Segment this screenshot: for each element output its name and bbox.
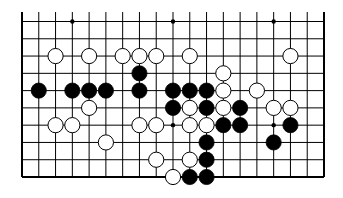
black-stone[interactable] <box>182 169 197 184</box>
white-stone[interactable] <box>149 152 164 167</box>
white-stone[interactable] <box>132 48 147 63</box>
white-stone[interactable] <box>182 48 197 63</box>
white-stone[interactable] <box>149 118 164 133</box>
white-stone[interactable] <box>182 100 197 115</box>
black-stone[interactable] <box>132 66 147 81</box>
black-stone[interactable] <box>165 100 180 115</box>
go-board-diagram <box>0 0 343 198</box>
white-stone[interactable] <box>182 152 197 167</box>
white-stone[interactable] <box>149 48 164 63</box>
white-stone[interactable] <box>283 48 298 63</box>
white-stone[interactable] <box>283 100 298 115</box>
black-stone[interactable] <box>98 83 113 98</box>
star-point <box>271 123 275 127</box>
black-stone[interactable] <box>199 100 214 115</box>
black-stone[interactable] <box>165 83 180 98</box>
white-stone[interactable] <box>98 135 113 150</box>
white-stone[interactable] <box>216 83 231 98</box>
star-point <box>70 19 74 23</box>
white-stone[interactable] <box>82 48 97 63</box>
white-stone[interactable] <box>199 118 214 133</box>
white-stone[interactable] <box>65 118 80 133</box>
white-stone[interactable] <box>48 118 63 133</box>
star-point <box>271 19 275 23</box>
white-stone[interactable] <box>182 118 197 133</box>
black-stone[interactable] <box>82 83 97 98</box>
black-stone[interactable] <box>199 83 214 98</box>
black-stone[interactable] <box>199 169 214 184</box>
black-stone[interactable] <box>233 118 248 133</box>
black-stone[interactable] <box>283 118 298 133</box>
black-stone[interactable] <box>65 83 80 98</box>
white-stone[interactable] <box>266 100 281 115</box>
black-stone[interactable] <box>216 118 231 133</box>
star-point <box>171 19 175 23</box>
white-stone[interactable] <box>132 118 147 133</box>
black-stone[interactable] <box>182 83 197 98</box>
black-stone[interactable] <box>132 83 147 98</box>
white-stone[interactable] <box>216 66 231 81</box>
white-stone[interactable] <box>115 48 130 63</box>
star-point <box>171 123 175 127</box>
black-stone[interactable] <box>199 152 214 167</box>
white-stone[interactable] <box>82 100 97 115</box>
stones-layer <box>31 48 298 184</box>
white-stone[interactable] <box>165 169 180 184</box>
black-stone[interactable] <box>31 83 46 98</box>
white-stone[interactable] <box>249 83 264 98</box>
black-stone[interactable] <box>199 135 214 150</box>
white-stone[interactable] <box>48 48 63 63</box>
black-stone[interactable] <box>266 135 281 150</box>
white-stone[interactable] <box>216 100 231 115</box>
go-board[interactable] <box>0 0 343 198</box>
black-stone[interactable] <box>233 100 248 115</box>
